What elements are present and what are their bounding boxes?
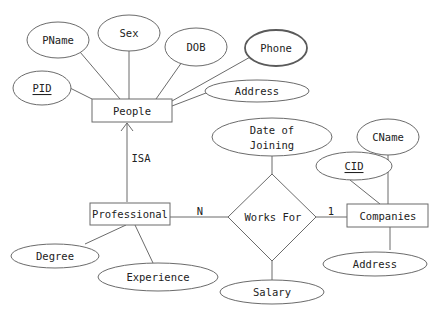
attribute-label: CName: [372, 131, 404, 143]
attribute-pname[interactable]: PName: [27, 22, 89, 58]
entity-label: People: [113, 105, 151, 117]
edge-cid-companies: [350, 180, 380, 204]
cardinality-n: N: [197, 205, 203, 217]
entity-companies[interactable]: Companies: [347, 204, 428, 227]
entity-professional[interactable]: Professional: [90, 203, 170, 225]
attribute-label-key: CID: [345, 160, 364, 172]
attribute-label: Address: [235, 85, 279, 97]
attribute-label: Address: [353, 258, 397, 270]
attribute-label: Salary: [253, 286, 291, 298]
isa-label: ISA: [132, 152, 152, 164]
attribute-people-address[interactable]: Address: [205, 80, 309, 102]
relationship-label: Works For: [245, 211, 302, 223]
attribute-phone-multivalued[interactable]: Phone: [245, 30, 307, 66]
cardinality-1: 1: [328, 205, 334, 217]
entity-label: Companies: [360, 210, 417, 222]
attribute-label: DOB: [187, 41, 206, 53]
attribute-cname[interactable]: CName: [357, 119, 419, 155]
attribute-label: PName: [42, 34, 74, 46]
attribute-label-line1: Date of: [250, 124, 294, 136]
attribute-date-of-joining[interactable]: Date of Joining: [212, 118, 332, 156]
attribute-cid[interactable]: CID: [316, 152, 392, 180]
edge-experience-professional: [135, 225, 153, 263]
attribute-label: Degree: [36, 250, 74, 262]
edge-pid-people: [70, 88, 92, 99]
attribute-dob[interactable]: DOB: [165, 28, 227, 66]
edge-dob-people: [156, 62, 182, 99]
attribute-companies-address[interactable]: Address: [323, 252, 427, 276]
attribute-label: Phone: [260, 42, 292, 54]
entity-label: Professional: [92, 208, 168, 220]
attribute-label: Experience: [126, 271, 189, 283]
attribute-sex[interactable]: Sex: [98, 15, 160, 51]
attribute-label: Sex: [120, 27, 139, 39]
edge-address-people: [172, 93, 206, 106]
attribute-salary[interactable]: Salary: [220, 280, 324, 304]
entity-people[interactable]: People: [92, 99, 172, 122]
attribute-experience[interactable]: Experience: [98, 263, 218, 291]
er-diagram: PID PName Sex DOB Phone Address People I…: [0, 0, 438, 318]
edge-pname-people: [80, 52, 120, 99]
relationship-works-for[interactable]: Works For: [228, 174, 316, 261]
er-diagram-canvas: PID PName Sex DOB Phone Address People I…: [0, 0, 438, 318]
edge-degree-professional: [85, 225, 126, 244]
attribute-degree[interactable]: Degree: [11, 244, 99, 268]
attribute-label-line2: Joining: [250, 139, 294, 151]
attribute-label-key: PID: [33, 82, 52, 94]
attribute-pid[interactable]: PID: [13, 71, 71, 105]
